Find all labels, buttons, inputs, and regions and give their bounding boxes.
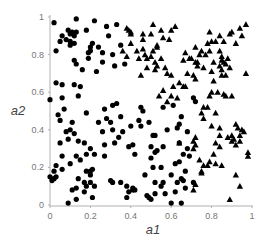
circle-point <box>102 154 107 159</box>
y-tick-labels: 00.20.40.60.81 <box>31 12 50 210</box>
circle-point <box>86 50 91 55</box>
triangle-point <box>170 83 176 89</box>
circle-point <box>173 161 178 166</box>
triangle-point <box>210 78 216 84</box>
x-tick-label: 0.4 <box>125 211 138 221</box>
triangle-point <box>237 183 243 189</box>
triangle-point <box>134 48 140 54</box>
circle-point <box>94 69 99 74</box>
circle-point <box>136 118 141 123</box>
x-tick-label: 0.2 <box>84 211 97 221</box>
circle-point <box>58 118 63 123</box>
data-points <box>47 16 251 205</box>
triangle-point <box>229 93 235 99</box>
circle-point <box>68 127 73 132</box>
triangle-point <box>192 134 198 140</box>
circle-point <box>70 120 75 125</box>
triangle-point <box>160 34 166 40</box>
circle-point <box>74 197 79 202</box>
circle-point <box>76 93 81 98</box>
circle-point <box>53 48 58 53</box>
triangle-point <box>212 110 218 116</box>
triangle-point <box>142 51 148 57</box>
circle-point <box>96 44 101 49</box>
circle-point <box>154 148 159 153</box>
triangle-point <box>198 110 204 116</box>
triangle-point <box>140 46 146 52</box>
circle-point <box>78 84 83 89</box>
y-tick-label: 0 <box>39 200 44 210</box>
triangle-point <box>212 38 218 44</box>
triangle-point <box>233 40 239 46</box>
circle-point <box>163 191 168 196</box>
circle-point <box>90 41 95 46</box>
circle-point <box>66 137 71 142</box>
triangle-point <box>223 72 229 78</box>
triangle-point <box>219 162 225 168</box>
circle-point <box>100 50 105 55</box>
circle-point <box>187 154 192 159</box>
circle-point <box>152 133 157 138</box>
circle-point <box>100 129 105 134</box>
circle-point <box>114 101 119 106</box>
triangle-point <box>237 138 243 144</box>
triangle-point <box>158 27 164 33</box>
circle-point <box>80 67 85 72</box>
circle-point <box>185 129 190 134</box>
circle-point <box>62 107 67 112</box>
circle-point <box>132 152 137 157</box>
triangle-point <box>225 55 231 61</box>
triangle-point <box>128 40 134 46</box>
circle-point <box>118 114 123 119</box>
circle-point <box>179 201 184 206</box>
triangle-point <box>214 89 220 95</box>
circle-point <box>84 152 89 157</box>
circle-point <box>49 178 54 183</box>
y-tick-label: 0.4 <box>31 125 44 135</box>
circle-point <box>169 201 174 206</box>
circle-point <box>183 169 188 174</box>
circle-point <box>55 112 60 117</box>
scatter-chart: 00.20.40.60.81 00.20.40.60.81 a1 a2 <box>0 0 269 245</box>
triangle-point <box>140 36 146 42</box>
circle-point <box>100 60 105 65</box>
circle-point <box>88 180 93 185</box>
circle-point <box>150 165 155 170</box>
circle-point <box>76 138 81 143</box>
circle-point <box>159 165 164 170</box>
triangle-point <box>124 53 130 59</box>
triangle-point <box>176 80 182 86</box>
circle-point <box>51 20 56 25</box>
circle-point <box>60 154 65 159</box>
circle-point <box>138 105 143 110</box>
circle-point <box>110 52 115 57</box>
circle-point <box>177 122 182 127</box>
triangle-point <box>206 29 212 35</box>
triangle-point <box>150 21 156 27</box>
x-tick-label: 0.8 <box>205 211 218 221</box>
circle-point <box>112 63 117 68</box>
triangle-point <box>144 65 150 71</box>
triangle-point <box>180 57 186 63</box>
circle-point <box>60 95 65 100</box>
triangle-point <box>192 44 198 50</box>
circle-point <box>53 174 58 179</box>
triangle-point <box>233 172 239 178</box>
circle-point <box>74 154 79 159</box>
circle-point <box>120 129 125 134</box>
circle-point <box>58 39 63 44</box>
circle-point <box>82 140 87 145</box>
triangle-point <box>160 87 166 93</box>
triangle-point <box>152 59 158 65</box>
circle-point <box>185 146 190 151</box>
triangle-point <box>216 33 222 39</box>
triangle-point <box>196 157 202 163</box>
triangle-point <box>200 115 206 121</box>
triangle-point <box>190 187 196 193</box>
y-tick-label: 0.2 <box>31 162 44 172</box>
circle-point <box>88 172 93 177</box>
circle-point <box>169 172 174 177</box>
triangle-point <box>239 33 245 39</box>
circle-point <box>78 157 83 162</box>
circle-point <box>146 120 151 125</box>
